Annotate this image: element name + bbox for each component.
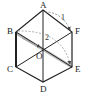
arrow-2-icon (18, 31, 70, 64)
label-b: B (7, 26, 13, 36)
hexagon-diagram: A B C D E F O 1 2 (0, 0, 91, 94)
label-f: F (75, 26, 80, 36)
label-o: O (36, 51, 43, 61)
label-a: A (40, 0, 47, 10)
label-c: C (7, 64, 13, 74)
label-arrow-2: 2 (45, 33, 49, 42)
label-e: E (75, 64, 81, 74)
label-arrow-1: 1 (61, 13, 65, 22)
label-d: D (40, 84, 47, 94)
arrow-bo-icon (22, 38, 40, 47)
